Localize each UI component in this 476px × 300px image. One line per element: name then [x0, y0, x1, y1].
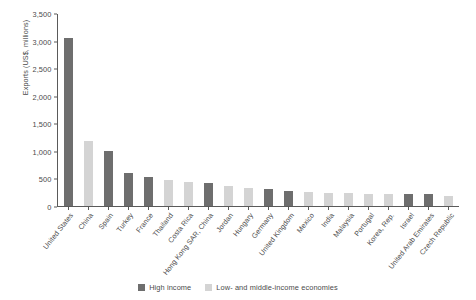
y-axis-tick: 1,500 [33, 120, 58, 129]
x-axis-label-slot: Hong Kong SAR, China [198, 211, 218, 281]
y-axis-tick-label: 0 [47, 203, 51, 212]
x-axis-tick-mark [308, 207, 309, 210]
bar-chart: Exports (US$, millions) 3,5003,0002,5002… [0, 0, 476, 300]
y-axis-tick: 1,000 [33, 147, 58, 156]
legend-label: High income [149, 283, 191, 292]
bar[interactable] [84, 141, 93, 206]
x-axis-tick [339, 207, 359, 210]
x-axis-tick-mark [288, 207, 289, 210]
x-axis-label: China [76, 211, 95, 232]
bar-slot [118, 14, 138, 206]
x-axis-label: United States [41, 211, 75, 251]
legend-swatch-icon [138, 284, 145, 291]
bar[interactable] [124, 173, 133, 206]
x-axis-label: Israel [398, 211, 416, 231]
bar-slot [138, 14, 158, 206]
x-axis-tick [379, 207, 399, 210]
bar-slot [158, 14, 178, 206]
x-axis-label-slot: Spain [98, 211, 118, 281]
x-axis-tick-mark [168, 207, 169, 210]
bar[interactable] [64, 38, 73, 206]
x-axis-label-slot: United States [58, 211, 78, 281]
bar-slot [359, 14, 379, 206]
x-axis-label-slot: Turkey [118, 211, 138, 281]
bar-series [58, 14, 459, 206]
x-axis-label-slot: Korea, Rep. [379, 211, 399, 281]
bar[interactable] [284, 191, 293, 206]
chart-legend: High incomeLow- and middle-income econom… [0, 283, 476, 292]
bar[interactable] [344, 193, 353, 206]
y-axis-tick-label: 2,500 [33, 65, 52, 74]
bar[interactable] [384, 194, 393, 206]
bar[interactable] [144, 177, 153, 206]
x-axis-label-slot: France [138, 211, 158, 281]
x-axis-tick [238, 207, 258, 210]
legend-item-lowmid[interactable]: Low- and middle-income economies [205, 283, 338, 292]
x-axis-tick-mark [148, 207, 149, 210]
y-axis-tick: 0 [47, 203, 57, 212]
bar[interactable] [224, 186, 233, 206]
bar[interactable] [184, 182, 193, 206]
x-axis-tick [138, 207, 158, 210]
bar-slot [399, 14, 419, 206]
y-axis-tick-label: 500 [39, 175, 52, 184]
y-axis-tick-label: 3,500 [33, 10, 52, 19]
bar[interactable] [204, 183, 213, 206]
x-axis-tick-mark [128, 207, 129, 210]
x-axis-tick [439, 207, 459, 210]
y-axis-tick: 2,500 [33, 65, 58, 74]
bar-slot [319, 14, 339, 206]
legend-label: Low- and middle-income economies [216, 283, 338, 292]
bar[interactable] [364, 194, 373, 206]
x-axis-tick [359, 207, 379, 210]
x-axis-ticks [58, 207, 459, 210]
bar[interactable] [104, 151, 113, 206]
y-axis-tick: 3,500 [33, 10, 58, 19]
x-axis-tick [118, 207, 138, 210]
bar-slot [258, 14, 278, 206]
x-axis-label-slot: China [78, 211, 98, 281]
bar[interactable] [444, 196, 453, 206]
bar-slot [238, 14, 258, 206]
x-axis-label-slot: Czech Republic [439, 211, 459, 281]
y-axis-tick-label: 1,000 [33, 147, 52, 156]
x-axis-label: Turkey [115, 211, 136, 234]
bar-slot [379, 14, 399, 206]
bar-slot [98, 14, 118, 206]
bar[interactable] [304, 192, 313, 206]
x-axis-tick [419, 207, 439, 210]
y-axis-tick-mark [54, 124, 57, 125]
x-axis-tick [279, 207, 299, 210]
x-axis-label-slot: Malaysia [339, 211, 359, 281]
x-axis-tick-mark [228, 207, 229, 210]
bar-slot [279, 14, 299, 206]
bar-slot [58, 14, 78, 206]
x-axis-tick-mark [208, 207, 209, 210]
x-axis-label-slot: Jordan [218, 211, 238, 281]
bar-slot [178, 14, 198, 206]
x-axis-label-slot: Mexico [299, 211, 319, 281]
y-axis-tick: 2,000 [33, 92, 58, 101]
x-axis-tick [158, 207, 178, 210]
x-axis-labels: United StatesChinaSpainTurkeyFranceThail… [58, 211, 459, 281]
y-axis-tick-mark [54, 69, 57, 70]
x-axis-label-slot: Hungary [238, 211, 258, 281]
bar[interactable] [324, 193, 333, 206]
x-axis-tick [258, 207, 278, 210]
bar[interactable] [424, 194, 433, 206]
x-axis-tick-mark [328, 207, 329, 210]
bar[interactable] [404, 194, 413, 206]
x-axis-tick-mark [108, 207, 109, 210]
x-axis-tick [198, 207, 218, 210]
x-axis-tick-mark [448, 207, 449, 210]
bar[interactable] [244, 188, 253, 206]
x-axis-tick-mark [268, 207, 269, 210]
bar[interactable] [264, 189, 273, 206]
x-axis-tick [98, 207, 118, 210]
bar[interactable] [164, 180, 173, 206]
bar-slot [419, 14, 439, 206]
y-axis-tick-label: 3,000 [33, 37, 52, 46]
x-axis-tick [299, 207, 319, 210]
legend-item-high[interactable]: High income [138, 283, 191, 292]
bar-slot [218, 14, 238, 206]
